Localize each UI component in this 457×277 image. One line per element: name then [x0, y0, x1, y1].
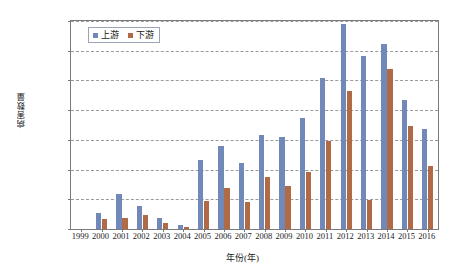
bar-上游-2009: [279, 137, 284, 229]
bar-下游-2012: [347, 91, 352, 229]
bar-下游-2010: [306, 172, 311, 229]
bar-下游-2008: [265, 177, 270, 229]
bar-上游-2004: [178, 225, 183, 229]
bar-上游-2001: [116, 194, 121, 229]
bar-下游-2009: [285, 186, 290, 229]
bar-下游-2004: [184, 227, 189, 229]
bar-下游-2016: [428, 166, 433, 229]
bar-上游-2012: [341, 24, 346, 229]
bar-上游-2014: [381, 44, 386, 229]
x-axis-title-wrap: 年份(年): [0, 251, 457, 264]
bar-下游-2003: [163, 223, 168, 229]
legend-entry-下游: 下游: [128, 30, 154, 40]
bar-上游-2010: [300, 118, 305, 229]
bar-下游-2013: [367, 200, 372, 229]
bar-下游-2002: [143, 215, 148, 229]
legend-swatch-icon: [128, 33, 133, 38]
bar-上游-2000: [96, 213, 101, 229]
bar-上游-2011: [320, 78, 325, 229]
bar-下游-2005: [204, 201, 209, 229]
bar-下游-2014: [387, 69, 392, 229]
bar-上游-2013: [361, 56, 366, 229]
legend-label: 下游: [136, 30, 154, 40]
plot-area: [70, 20, 439, 230]
y-axis-title: 病害数量: [18, 92, 32, 128]
bar-上游-2005: [198, 160, 203, 229]
legend-swatch-icon: [93, 33, 98, 38]
bar-上游-2008: [259, 135, 264, 229]
bar-下游-2001: [122, 218, 127, 229]
bar-上游-2003: [157, 218, 162, 229]
bar-下游-2006: [224, 188, 229, 229]
bar-下游-2007: [245, 202, 250, 229]
bar-上游-2002: [137, 206, 142, 229]
bar-下游-2011: [326, 141, 331, 229]
bar-下游-2000: [102, 219, 107, 229]
bar-上游-2016: [422, 129, 427, 229]
x-tick-label-2016: 2016: [412, 231, 442, 241]
legend-label: 上游: [101, 30, 119, 40]
bar-chart-figure: 病害数量 03006009001 2001 5001 8002 100 1999…: [0, 0, 457, 277]
bar-上游-2007: [239, 163, 244, 229]
bars-layer: [71, 21, 438, 229]
legend-entry-上游: 上游: [93, 30, 119, 40]
bar-下游-2015: [408, 126, 413, 230]
bar-上游-2015: [402, 100, 407, 229]
x-axis-title: 年份(年): [226, 251, 259, 264]
chart-legend: 上游下游: [88, 27, 160, 43]
bar-上游-2006: [218, 146, 223, 229]
y-tick-mark: [68, 229, 71, 230]
